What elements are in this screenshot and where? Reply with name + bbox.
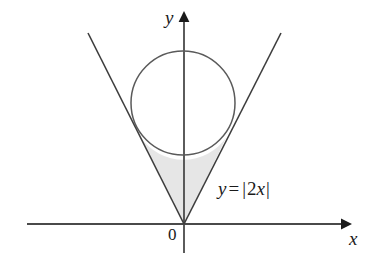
- x-axis-label: x: [349, 228, 357, 250]
- equation-variable: x: [256, 178, 264, 199]
- curve-left-branch: [88, 33, 184, 224]
- y-axis-arrowhead: [179, 11, 190, 22]
- origin-label: 0: [168, 225, 177, 245]
- equation-bar-close: |: [265, 178, 271, 199]
- y-axis-label: y: [165, 7, 173, 29]
- curve-equation-label: y=|2x|: [218, 178, 271, 200]
- tangent-circle: [131, 51, 235, 155]
- math-figure: y x 0 y=|2x|: [0, 0, 370, 253]
- equation-operator: =: [226, 178, 241, 199]
- figure-canvas: [0, 0, 370, 253]
